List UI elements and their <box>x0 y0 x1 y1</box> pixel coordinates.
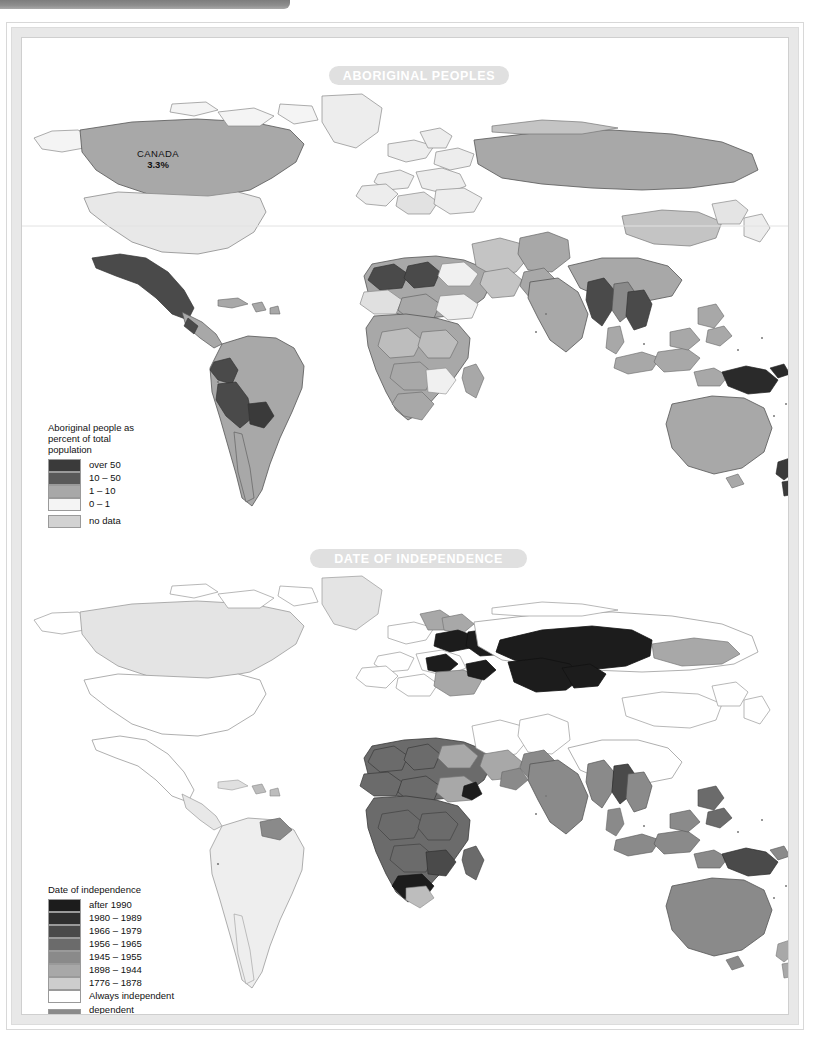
legend-swatch <box>48 899 81 912</box>
legend-item-label: 10 – 50 <box>89 473 121 484</box>
top-accent-bar <box>0 0 290 9</box>
legend-swatch <box>48 938 81 951</box>
legend-aboriginal-peoples: Aboriginal people as percent of total po… <box>48 422 134 528</box>
legend-item-label: after 1990 <box>89 900 132 911</box>
legend-swatch <box>48 951 81 964</box>
legend-item: 1945 – 1955 <box>48 951 174 964</box>
legend-swatch <box>48 472 81 485</box>
legend-item: 0 – 1 <box>48 498 134 511</box>
legend-item-label: 1 – 10 <box>89 486 115 497</box>
legend-item-label: no data <box>89 516 121 527</box>
legend-item: 1966 – 1979 <box>48 925 174 938</box>
legend-date-of-independence: Date of independence after 1990 1980 – 1… <box>48 884 174 1015</box>
legend-item: over 50 <box>48 459 134 472</box>
legend-item-label: dependent territory <box>89 1005 134 1015</box>
legend-swatch <box>48 485 81 498</box>
legend-item-label: over 50 <box>89 460 121 471</box>
page-frame-middle: ABORIGINAL PEOPLES <box>11 27 799 1025</box>
legend-swatch <box>48 925 81 938</box>
legend-item-label: 1898 – 1944 <box>89 965 142 976</box>
legend-item: 1 – 10 <box>48 485 134 498</box>
legend-item: 1980 – 1989 <box>48 912 174 925</box>
legend-swatch <box>48 459 81 472</box>
legend-item: 1898 – 1944 <box>48 964 174 977</box>
legend-item-label: 1956 – 1965 <box>89 939 142 950</box>
legend-item: 1956 – 1965 <box>48 938 174 951</box>
legend-item-label: Always independent <box>89 991 174 1002</box>
legend-title: Date of independence <box>48 884 174 895</box>
legend-swatch <box>48 498 81 511</box>
map-title-date-of-independence: DATE OF INDEPENDENCE <box>310 549 527 568</box>
annotation-canada-value: 3.3% <box>126 159 190 170</box>
legend-item: no data <box>48 515 134 528</box>
legend-swatch <box>48 1009 81 1015</box>
page-content: ABORIGINAL PEOPLES <box>21 37 789 1015</box>
legend-swatch <box>48 990 81 1003</box>
legend-item: after 1990 <box>48 899 174 912</box>
legend-item: 10 – 50 <box>48 472 134 485</box>
legend-item-label: 1776 – 1878 <box>89 978 142 989</box>
page-frame-outer: ABORIGINAL PEOPLES <box>6 22 804 1030</box>
legend-swatch <box>48 977 81 990</box>
legend-item-label: 1966 – 1979 <box>89 926 142 937</box>
legend-title: Aboriginal people as percent of total po… <box>48 422 134 455</box>
legend-swatch <box>48 912 81 925</box>
legend-item-label: 1945 – 1955 <box>89 952 142 963</box>
legend-item: dependent territory <box>48 1006 174 1015</box>
map-title-aboriginal-peoples: ABORIGINAL PEOPLES <box>329 66 509 85</box>
legend-item-label: 0 – 1 <box>89 499 110 510</box>
legend-items: after 1990 1980 – 1989 1966 – 1979 1956 … <box>48 899 174 1015</box>
annotation-canada: CANADA 3.3% <box>126 148 190 170</box>
annotation-canada-name: CANADA <box>126 148 190 159</box>
legend-swatch <box>48 964 81 977</box>
legend-item: Always independent <box>48 990 174 1003</box>
legend-items: over 50 10 – 50 1 – 10 0 – 1 <box>48 459 134 528</box>
legend-swatch <box>48 515 81 528</box>
legend-item-label: 1980 – 1989 <box>89 913 142 924</box>
legend-item: 1776 – 1878 <box>48 977 174 990</box>
